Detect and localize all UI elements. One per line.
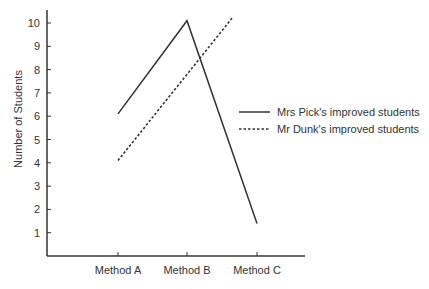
y-tick-label: 3 (34, 180, 40, 192)
y-tick-label: 8 (34, 64, 40, 76)
y-tick-label: 7 (34, 87, 40, 99)
y-tick-label: 4 (34, 157, 40, 169)
legend-label-1: Mr Dunk's improved students (277, 123, 420, 135)
legend: Mrs Pick's improved studentsMr Dunk's im… (239, 106, 420, 135)
y-tick-label: 6 (34, 110, 40, 122)
x-tick-label: Method B (163, 264, 210, 276)
series-lines (118, 18, 257, 223)
x-tick-label: Method C (233, 264, 281, 276)
y-axis-label: Number of Students (12, 70, 24, 168)
series-line-1 (118, 18, 232, 160)
y-tick-label: 10 (28, 17, 40, 29)
legend-label-0: Mrs Pick's improved students (277, 106, 420, 118)
y-tick-label: 5 (34, 134, 40, 146)
line-chart: 12345678910 Method AMethod BMethod C Num… (0, 0, 429, 289)
series-line-0 (118, 21, 257, 224)
y-tick-label: 2 (34, 203, 40, 215)
axes (47, 10, 305, 256)
y-tick-label: 9 (34, 40, 40, 52)
x-tick-label: Method A (95, 264, 142, 276)
y-tick-label: 1 (34, 227, 40, 239)
